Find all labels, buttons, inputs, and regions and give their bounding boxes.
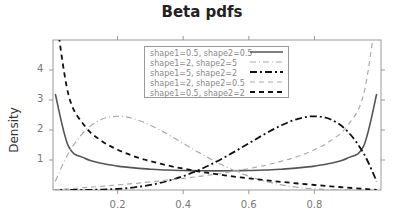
- legend-swatches: [0, 0, 404, 218]
